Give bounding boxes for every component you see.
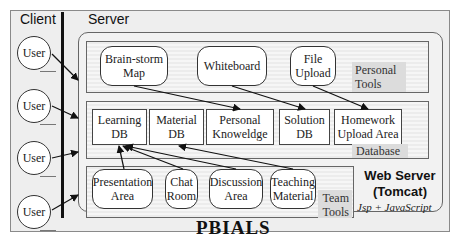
- client-server-divider: [61, 12, 64, 218]
- whiteboard-box: Whiteboard: [197, 46, 267, 86]
- user-node-1: User: [17, 36, 51, 70]
- personal-knowledge-box: Personal Knoweldge: [206, 109, 274, 145]
- user-node-3: User: [17, 141, 51, 175]
- teaching-material-box: Teaching Material: [270, 169, 316, 209]
- database-tag: Database: [352, 144, 408, 158]
- discussion-area-box: Discussion Area: [209, 169, 263, 209]
- personal-tools-tag: Personal Tools: [352, 62, 406, 92]
- user-node-2: User: [17, 89, 51, 123]
- client-label: Client: [20, 11, 56, 27]
- file-upload-box: File Upload: [290, 46, 336, 86]
- solution-db-box: Solution DB: [279, 109, 330, 145]
- presentation-area-box: Presentation Area: [92, 169, 153, 209]
- team-tools-tag: Team Tools: [318, 190, 352, 218]
- web-server-title: Web Server (Tomcat): [356, 168, 444, 200]
- web-server-subtitle: Jsp + JavaScript: [357, 201, 432, 213]
- server-label: Server: [88, 11, 129, 27]
- homework-upload-box: Homework Upload Area: [334, 109, 402, 145]
- chat-room-box: Chat Room: [165, 169, 198, 209]
- material-db-box: Material DB: [149, 109, 204, 145]
- learning-db-box: Learning DB: [92, 109, 147, 145]
- system-name: PBIALS: [196, 217, 271, 239]
- user-node-4: User: [17, 195, 51, 229]
- brainstorm-map-box: Brain-storm Map: [100, 46, 168, 86]
